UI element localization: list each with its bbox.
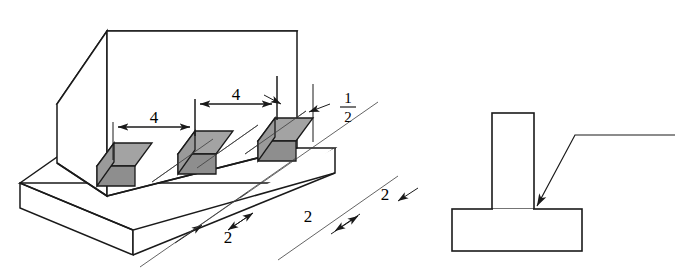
drawing-canvas: 4 4 1 2 <box>0 0 675 277</box>
length-dim-2-label: 2 <box>304 207 313 226</box>
isometric-weldment: 4 4 1 2 <box>20 31 418 267</box>
leader-path <box>537 135 675 206</box>
length-dim-1-label: 2 <box>224 228 233 247</box>
weld-leader-line <box>537 135 675 206</box>
tee-section-view <box>452 113 675 251</box>
leg-size-arrow-right <box>309 104 330 112</box>
length-dim-3-label: 2 <box>381 185 390 204</box>
leg-size-numerator: 1 <box>344 90 352 106</box>
length-dim-3-arrow-outer <box>398 188 418 201</box>
pitch-dim-2-label: 4 <box>232 85 241 104</box>
length-dim-3-arrow-right <box>331 216 358 234</box>
pitch-dim-1-label: 4 <box>150 108 159 127</box>
technical-drawing-figure: 4 4 1 2 <box>0 0 675 277</box>
horizontal-member <box>452 209 582 251</box>
vertical-member <box>492 113 534 213</box>
